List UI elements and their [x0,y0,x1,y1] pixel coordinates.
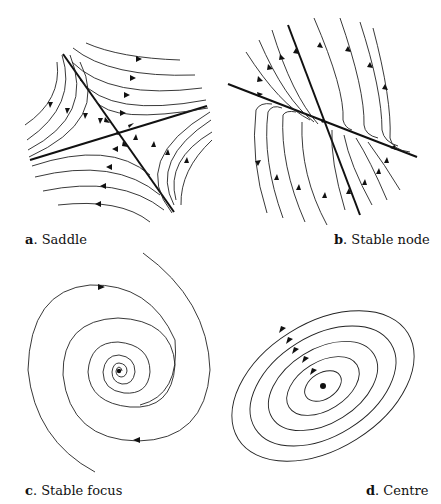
caption-title: Stable node [351,232,429,247]
caption-stable-focus: c. Stable focus [25,484,122,498]
caption-letter: c [25,483,33,498]
saddle-portrait [25,43,212,222]
stable-node-portrait [228,18,417,225]
caption-separator: . [33,483,41,498]
caption-letter: d [366,483,375,498]
centre-portrait [205,280,441,493]
phase-portraits-figure [0,0,441,504]
caption-centre: d. Centre [366,484,429,498]
caption-stable-node: b. Stable node [334,233,430,247]
stable-focus-portrait [28,253,210,472]
caption-title: Saddle [42,232,87,247]
caption-separator: . [33,232,41,247]
caption-letter: b [334,232,343,247]
caption-title: Stable focus [41,483,122,498]
caption-saddle: a. Saddle [25,233,87,247]
caption-title: Centre [383,483,428,498]
